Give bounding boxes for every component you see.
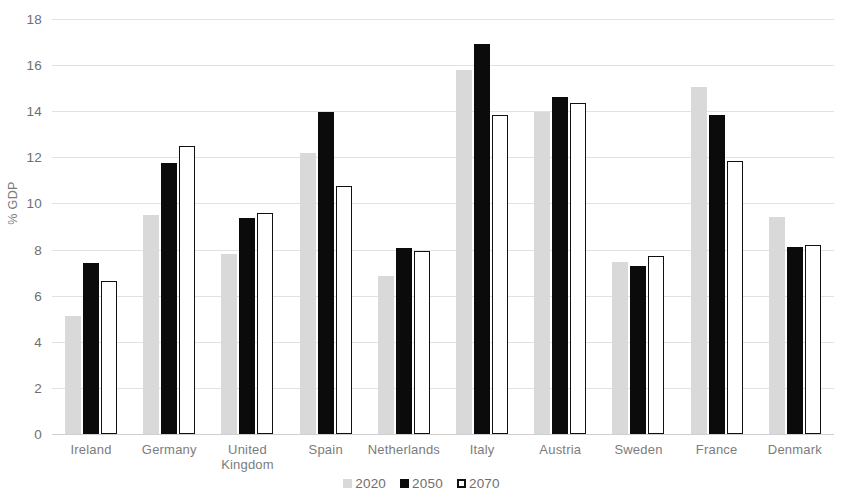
bar-ireland-2070	[101, 281, 117, 434]
bar-netherlands-2070	[414, 251, 430, 434]
legend-label-2020: 2020	[355, 476, 386, 491]
chart-legend: 202020502070	[0, 476, 843, 491]
x-axis-label-netherlands: Netherlands	[365, 442, 443, 457]
y-axis-tick-0: 0	[8, 427, 42, 442]
bar-austria-2020	[534, 112, 550, 434]
bar-united-kingdom-2020	[221, 254, 237, 434]
legend-item-2020[interactable]: 2020	[343, 476, 386, 491]
bar-ireland-2050	[83, 263, 99, 434]
bar-germany-2020	[143, 215, 159, 434]
y-axis-tick-6: 6	[8, 288, 42, 303]
y-axis-tick-8: 8	[8, 242, 42, 257]
bar-austria-2050	[552, 97, 568, 434]
bar-germany-2050	[161, 163, 177, 434]
bar-spain-2020	[300, 153, 316, 434]
x-axis-label-italy: Italy	[443, 442, 521, 457]
y-axis-tick-16: 16	[8, 58, 42, 73]
bar-netherlands-2020	[378, 276, 394, 434]
x-axis-label-united-kingdom: United Kingdom	[208, 442, 286, 472]
bar-group-germany	[130, 19, 208, 434]
legend-swatch-icon-2050	[400, 479, 409, 488]
y-axis-tick-10: 10	[8, 196, 42, 211]
gridline-0	[52, 434, 834, 435]
bar-group-netherlands	[365, 19, 443, 434]
bar-united-kingdom-2070	[257, 213, 273, 434]
bar-austria-2070	[570, 103, 586, 434]
bar-france-2020	[691, 87, 707, 434]
bar-spain-2050	[318, 112, 334, 434]
plot-area: 024681012141618IrelandGermanyUnited King…	[52, 19, 834, 434]
bar-germany-2070	[179, 146, 195, 434]
bar-italy-2070	[492, 115, 508, 434]
bar-spain-2070	[336, 186, 352, 434]
legend-item-2050[interactable]: 2050	[400, 476, 443, 491]
x-axis-label-france: France	[678, 442, 756, 457]
y-axis-tick-4: 4	[8, 334, 42, 349]
x-axis-label-spain: Spain	[287, 442, 365, 457]
legend-swatch-icon-2020	[343, 479, 352, 488]
bar-denmark-2050	[787, 247, 803, 434]
legend-label-2070: 2070	[469, 476, 500, 491]
bar-sweden-2020	[612, 262, 628, 434]
bar-denmark-2020	[769, 217, 785, 434]
bar-ireland-2020	[65, 316, 81, 434]
bar-sweden-2070	[648, 256, 664, 434]
x-axis-label-denmark: Denmark	[756, 442, 834, 457]
bar-france-2050	[709, 115, 725, 434]
legend-swatch-icon-2070	[457, 479, 466, 488]
legend-item-2070[interactable]: 2070	[457, 476, 500, 491]
x-axis-label-germany: Germany	[130, 442, 208, 457]
legend-label-2050: 2050	[412, 476, 443, 491]
bar-group-italy	[443, 19, 521, 434]
bar-group-spain	[287, 19, 365, 434]
bar-group-united-kingdom	[208, 19, 286, 434]
y-axis-tick-12: 12	[8, 150, 42, 165]
y-axis-tick-14: 14	[8, 104, 42, 119]
bar-group-austria	[521, 19, 599, 434]
bar-group-sweden	[599, 19, 677, 434]
bar-sweden-2050	[630, 266, 646, 434]
y-axis-tick-18: 18	[8, 12, 42, 27]
bar-italy-2050	[474, 44, 490, 434]
x-axis-label-austria: Austria	[521, 442, 599, 457]
x-axis-label-sweden: Sweden	[599, 442, 677, 457]
bar-group-france	[678, 19, 756, 434]
bar-france-2070	[727, 161, 743, 434]
bar-group-denmark	[756, 19, 834, 434]
x-axis-label-ireland: Ireland	[52, 442, 130, 457]
bar-chart: % GDP 024681012141618IrelandGermanyUnite…	[0, 0, 843, 500]
bar-italy-2020	[456, 70, 472, 434]
bar-group-ireland	[52, 19, 130, 434]
bar-denmark-2070	[805, 245, 821, 434]
bar-united-kingdom-2050	[239, 218, 255, 434]
y-axis-tick-2: 2	[8, 380, 42, 395]
bar-netherlands-2050	[396, 248, 412, 434]
